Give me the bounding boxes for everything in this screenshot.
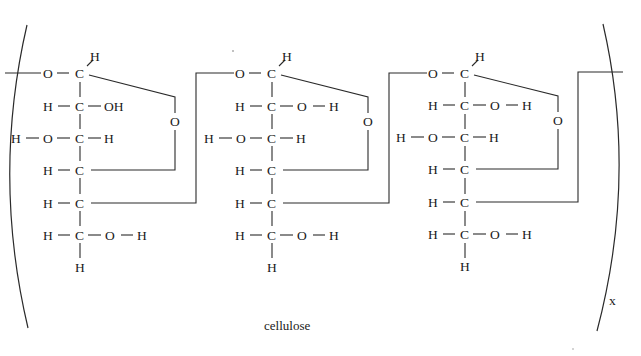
hydrogen: H xyxy=(329,228,339,243)
carbon-c3: C xyxy=(75,131,84,146)
carbon-c5: C xyxy=(267,196,276,211)
glucose-unit-3: O C H O H C O H H O C H H C H xyxy=(396,49,563,274)
carbon-c2: C xyxy=(267,99,276,114)
oxygen: O xyxy=(105,228,115,243)
carbon-c1: C xyxy=(267,66,276,81)
hydrogen: H xyxy=(104,131,114,146)
hydrogen: H xyxy=(204,131,214,146)
anomeric-hydrogen: H xyxy=(475,49,485,64)
anomeric-hydrogen: H xyxy=(90,49,100,64)
oxygen: O xyxy=(428,130,438,145)
cellulose-structure-diagram: x O C H O H C OH H O C H xyxy=(0,0,641,356)
hydrogen: H xyxy=(522,98,532,113)
carbon-c1: C xyxy=(75,66,84,81)
carbon-c4: C xyxy=(460,162,469,177)
hydrogen: H xyxy=(43,196,53,211)
hydrogen: H xyxy=(428,227,438,242)
hydrogen: H xyxy=(489,130,499,145)
glucose-unit-1: O C H O H C OH H O C H H C H xyxy=(11,49,180,275)
ring-bond xyxy=(281,75,368,113)
carbon-c6: C xyxy=(460,227,469,242)
hydrogen: H xyxy=(43,99,53,114)
hydrogen: H xyxy=(43,228,53,243)
hydrogen: H xyxy=(235,99,245,114)
ring-oxygen: O xyxy=(363,114,373,129)
repeat-subscript: x xyxy=(609,293,616,308)
hydroxyl: OH xyxy=(104,99,124,114)
oxygen: O xyxy=(236,131,246,146)
ring-oxygen: O xyxy=(170,114,180,129)
hydrogen: H xyxy=(137,228,147,243)
anomeric-hydrogen: H xyxy=(282,49,292,64)
hydrogen: H xyxy=(396,130,406,145)
carbon-c4: C xyxy=(75,163,84,178)
oxygen: O xyxy=(43,131,53,146)
carbon-c2: C xyxy=(460,98,469,113)
hydrogen: H xyxy=(43,163,53,178)
hydrogen: H xyxy=(75,260,85,275)
carbon-c5: C xyxy=(460,195,469,210)
ring-bond xyxy=(89,75,175,113)
carbon-c6: C xyxy=(267,228,276,243)
oxygen: O xyxy=(490,98,500,113)
carbon-c3: C xyxy=(460,130,469,145)
hydrogen: H xyxy=(267,260,277,275)
hydrogen: H xyxy=(11,131,21,146)
hydrogen: H xyxy=(296,131,306,146)
oxygen: O xyxy=(297,99,307,114)
carbon-c3: C xyxy=(267,131,276,146)
ring-bond xyxy=(474,75,558,112)
right-bracket xyxy=(597,24,619,331)
oxygen: O xyxy=(490,227,500,242)
hydrogen: H xyxy=(235,163,245,178)
glycosidic-oxygen: O xyxy=(235,66,245,81)
stray-dot xyxy=(572,348,573,349)
figure-caption: cellulose xyxy=(264,318,310,333)
hydrogen: H xyxy=(235,196,245,211)
hydrogen: H xyxy=(460,259,470,274)
hydrogen: H xyxy=(329,99,339,114)
carbon-c4: C xyxy=(267,163,276,178)
hydrogen: H xyxy=(235,228,245,243)
hydrogen: H xyxy=(428,162,438,177)
glycosidic-oxygen: O xyxy=(428,66,438,81)
glycosidic-oxygen: O xyxy=(43,66,53,81)
carbon-c2: C xyxy=(75,99,84,114)
hydrogen: H xyxy=(522,227,532,242)
stray-dot xyxy=(232,50,233,51)
ring-oxygen: O xyxy=(553,113,563,128)
left-bracket xyxy=(10,25,28,328)
glucose-unit-2: O C H O H C O H H O C H H C H xyxy=(204,49,373,275)
oxygen: O xyxy=(297,228,307,243)
carbon-c5: C xyxy=(75,196,84,211)
carbon-c1: C xyxy=(460,66,469,81)
hydrogen: H xyxy=(428,98,438,113)
carbon-c6: C xyxy=(75,228,84,243)
hydrogen: H xyxy=(428,195,438,210)
